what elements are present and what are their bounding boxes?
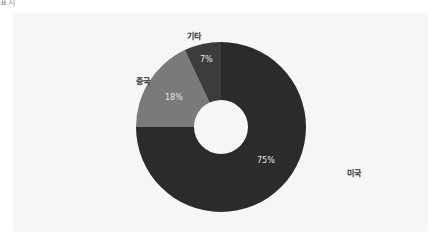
donut-chart: 미국 중국 기타 75% 18% 7% — [0, 0, 438, 239]
label-china: 중국 — [136, 77, 151, 86]
value-other: 7% — [200, 55, 213, 64]
value-usa: 75% — [257, 156, 275, 165]
label-other: 기타 — [187, 31, 202, 41]
value-china: 18% — [165, 93, 183, 102]
label-usa: 미국 — [347, 168, 362, 178]
